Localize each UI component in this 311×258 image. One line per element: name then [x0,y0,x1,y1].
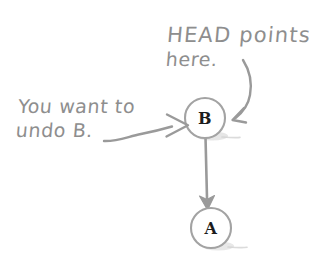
node-b-label: B [198,109,212,128]
undo-annotation-line1: You want to [17,95,136,117]
head-annotation-text: HEAD points here. [164,24,311,69]
undo-annotation-line2: undo B. [15,120,134,140]
head-annotation-arrow [233,60,251,123]
undo-annotation-text: You want to undo B. [15,96,136,140]
edge-b-to-a [200,137,215,210]
head-annotation-line2: here. [165,49,310,69]
node-a-label: A [205,219,218,238]
diagram-canvas: HEAD points here. You want to undo B. B … [0,0,311,258]
head-annotation-line1: HEAD points [166,23,311,47]
